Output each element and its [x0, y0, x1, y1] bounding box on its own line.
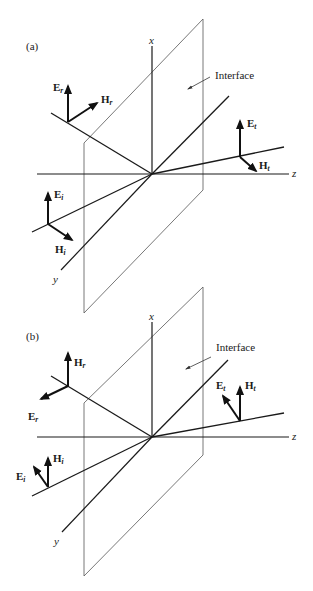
incident-ray-b [32, 437, 152, 496]
E-reflected-label-a: Er [53, 81, 63, 95]
E-incident-label-a: Ei [54, 188, 64, 202]
E-transmitted-label-b: Et [216, 379, 226, 393]
E-incident-label-b: Ei [16, 470, 26, 484]
x-axis-label-b: x [148, 310, 154, 322]
y-axis-label-b: y [53, 535, 59, 547]
E-incident-arrow-b [34, 467, 48, 487]
E-transmitted-label-a: Et [247, 117, 257, 131]
panel-label-b: (b) [26, 330, 39, 343]
H-incident-label-a: Hi [55, 243, 67, 257]
y-axis-label-a: y [52, 273, 58, 285]
panel-a: (a) x z y Interface Er Hr Et Ht Ei Hi [26, 19, 297, 313]
H-reflected-arrow-a [68, 103, 97, 122]
E-transmitted-arrow-b [223, 396, 240, 421]
E-reflected-label-b: Er [28, 410, 38, 424]
H-transmitted-label-a: Ht [259, 159, 271, 173]
reflection-transmission-diagram: (a) x z y Interface Er Hr Et Ht Ei Hi [0, 0, 313, 591]
interface-plane-a [84, 19, 203, 313]
H-reflected-label-b: Hr [74, 356, 86, 370]
y-axis-b [62, 437, 152, 532]
y-axis-a [61, 174, 152, 270]
interface-pointer-arrow-b [186, 357, 211, 369]
interface-pointer-arrow-a [188, 77, 210, 89]
H-transmitted-arrow-a [240, 157, 256, 171]
z-axis-label-a: z [291, 167, 297, 179]
panel-b: (b) x z y Interface Hr Er Et Ht Ei Hi [16, 287, 297, 576]
E-reflected-arrow-b [41, 386, 68, 399]
reflected-ray-a [51, 113, 152, 174]
x-axis-label-a: x [148, 34, 154, 46]
panel-label-a: (a) [26, 40, 39, 53]
H-reflected-label-a: Hr [101, 93, 113, 107]
z-axis-label-b: z [291, 430, 297, 442]
H-incident-arrow-a [48, 224, 72, 240]
incident-ray-a [32, 174, 152, 232]
plane-normal-diagonal-a [152, 96, 229, 174]
H-transmitted-label-b: Ht [245, 379, 257, 393]
H-incident-label-b: Hi [53, 452, 65, 466]
interface-label-b: Interface [216, 341, 255, 353]
reflected-ray-b [51, 376, 152, 437]
interface-label-a: Interface [215, 69, 254, 81]
